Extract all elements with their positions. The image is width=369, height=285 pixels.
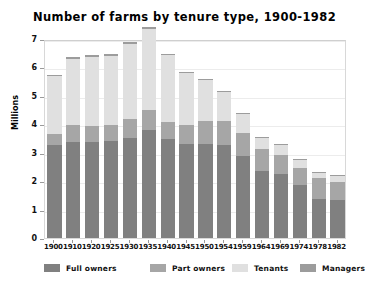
y-axis-tick-label: 1	[13, 207, 37, 215]
bar-segment	[236, 133, 250, 156]
bar-stack[interactable]	[312, 39, 326, 238]
legend-label: Managers	[322, 264, 365, 273]
bar-segment	[330, 175, 344, 181]
bar-segment	[255, 137, 269, 149]
chart-container: Number of farms by tenure type, 1900-198…	[0, 0, 369, 285]
bar-segment	[161, 122, 175, 140]
bar-segment	[123, 138, 137, 238]
legend-label: Full owners	[66, 264, 117, 273]
x-axis-tick-label: 1954	[214, 244, 233, 251]
bar-segment	[217, 145, 231, 238]
bar-segment	[142, 130, 156, 238]
bar-segment	[312, 178, 326, 198]
legend-label: Tenants	[254, 264, 288, 273]
bar-segment	[236, 156, 250, 238]
y-axis-tick-label: 7	[13, 36, 37, 44]
bar-segment	[217, 121, 231, 144]
bar-segment	[236, 113, 250, 114]
bar-segment	[104, 54, 118, 56]
legend-swatch	[44, 264, 60, 272]
bar-segment	[104, 56, 118, 126]
bar-segment	[179, 125, 193, 144]
bar-segment	[66, 57, 80, 59]
bar-stack[interactable]	[330, 39, 344, 238]
bar-segment	[47, 145, 61, 238]
bar-stack[interactable]	[179, 39, 193, 238]
bar-segment	[142, 27, 156, 28]
bar-segment	[312, 199, 326, 238]
bar-segment	[198, 80, 212, 121]
bar-stack[interactable]	[293, 39, 307, 238]
bar-segment	[47, 75, 61, 77]
bar-segment	[198, 79, 212, 80]
bar-segment	[179, 72, 193, 73]
bar-segment	[47, 134, 61, 145]
bar-stack[interactable]	[123, 39, 137, 238]
legend-item[interactable]: Part owners	[150, 262, 225, 274]
legend-item[interactable]: Tenants	[232, 262, 288, 274]
x-axis-tick-label: 1940	[157, 244, 176, 251]
bar-segment	[161, 139, 175, 238]
bar-segment	[85, 126, 99, 142]
bar-stack[interactable]	[142, 39, 156, 238]
legend-item[interactable]: Full owners	[44, 262, 117, 274]
x-axis-tick-label: 1978	[308, 244, 327, 251]
bar-segment	[179, 144, 193, 238]
bar-segment	[161, 55, 175, 122]
bar-segment	[66, 125, 80, 142]
bar-segment	[274, 174, 288, 238]
bar-segment	[330, 182, 344, 200]
bar-segment	[198, 121, 212, 144]
bar-segment	[274, 155, 288, 174]
bar-segment	[217, 91, 231, 92]
bar-segment	[274, 145, 288, 155]
x-axis-tick-label: 1935	[138, 244, 157, 251]
bar-segment	[66, 142, 80, 238]
bar-stack[interactable]	[85, 39, 99, 238]
bar-segment	[123, 119, 137, 138]
bar-stack[interactable]	[47, 39, 61, 238]
bar-stack[interactable]	[161, 39, 175, 238]
x-axis-tick-label: 1930	[120, 244, 139, 251]
y-axis-title: Millions	[11, 78, 20, 148]
legend-swatch	[232, 264, 248, 272]
bar-segment	[293, 185, 307, 238]
x-axis-tick-label: 1910	[63, 244, 82, 251]
y-axis-tick-label: 6	[13, 64, 37, 72]
y-axis-tick-label: 0	[13, 235, 37, 243]
bar-stack[interactable]	[198, 39, 212, 238]
bar-segment	[104, 141, 118, 238]
x-axis-tick-label: 1945	[176, 244, 195, 251]
bar-segment	[255, 149, 269, 171]
legend-item[interactable]: Managers	[300, 262, 365, 274]
x-axis-tick-label: 1964	[252, 244, 271, 251]
chart-legend: Full ownersPart ownersTenantsManagers	[0, 262, 369, 278]
bar-segment	[255, 171, 269, 238]
bar-stack[interactable]	[217, 39, 231, 238]
plot-area	[44, 40, 346, 239]
bar-stack[interactable]	[236, 39, 250, 238]
bar-stack[interactable]	[66, 39, 80, 238]
y-axis-tick-label: 5	[13, 93, 37, 101]
x-axis-tick-label: 1950	[195, 244, 214, 251]
bar-stack[interactable]	[104, 39, 118, 238]
bar-stack[interactable]	[255, 39, 269, 238]
bar-segment	[236, 113, 250, 133]
bar-stack[interactable]	[274, 39, 288, 238]
x-axis-tick-label: 1959	[233, 244, 252, 251]
bar-segment	[312, 172, 326, 178]
bar-segment	[198, 144, 212, 238]
bar-segment	[123, 44, 137, 120]
y-axis-tick-label: 2	[13, 178, 37, 186]
x-axis-tick-label: 1900	[44, 244, 63, 251]
bar-segment	[47, 76, 61, 133]
bar-segment	[217, 92, 231, 122]
bar-segment	[179, 73, 193, 126]
x-axis-tick-label: 1925	[101, 244, 120, 251]
y-axis-tick-label: 4	[13, 121, 37, 129]
y-axis-tick-mark	[40, 239, 44, 240]
bar-segment	[142, 29, 156, 111]
bar-segment	[85, 57, 99, 127]
bar-segment	[293, 159, 307, 167]
x-axis-tick-label: 1974	[289, 244, 308, 251]
